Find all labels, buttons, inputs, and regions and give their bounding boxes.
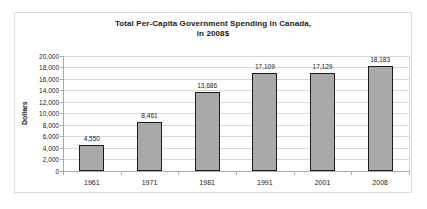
x-tick-mark — [351, 172, 352, 175]
bar-value-label: 13,686 — [185, 82, 229, 90]
y-axis-title: Dollars — [19, 56, 29, 171]
y-tick-label: 20,000 — [30, 53, 59, 60]
gridline — [63, 148, 409, 149]
bar — [79, 145, 104, 171]
gridline — [63, 90, 409, 91]
gridline — [63, 113, 409, 114]
bar-value-label: 18,183 — [358, 56, 402, 64]
chart-title-line2: in 2008$ — [15, 29, 411, 39]
y-tick-label: 2,000 — [30, 156, 59, 163]
bar-value-label: 8,461 — [128, 112, 172, 120]
gridline — [63, 79, 409, 80]
x-tick-label: 1961 — [70, 179, 114, 187]
x-tick-label: 2008 — [358, 179, 402, 187]
x-tick-label: 1991 — [243, 179, 287, 187]
bar — [137, 122, 162, 171]
x-tick-mark — [121, 172, 122, 175]
x-tick-mark — [63, 172, 64, 175]
gridline — [63, 67, 409, 68]
x-tick-label: 1971 — [128, 179, 172, 187]
y-tick-label: 10,000 — [30, 110, 59, 117]
y-tick-label: 6,000 — [30, 133, 59, 140]
chart-image: Total Per-Capita Government Spending in … — [0, 0, 427, 209]
x-tick-mark — [236, 172, 237, 175]
bar — [310, 73, 335, 171]
y-tick-label: 0 — [30, 168, 59, 175]
bar-value-label: 4,550 — [70, 135, 114, 143]
chart-frame: Total Per-Capita Government Spending in … — [14, 12, 412, 193]
chart-title-line1: Total Per-Capita Government Spending in … — [15, 19, 411, 29]
x-tick-mark — [178, 172, 179, 175]
gridline — [63, 56, 409, 57]
bar — [195, 92, 220, 171]
y-tick-label: 4,000 — [30, 145, 59, 152]
gridline — [63, 125, 409, 126]
x-tick-mark — [294, 172, 295, 175]
y-tick-label: 8,000 — [30, 122, 59, 129]
bar-value-label: 17,129 — [301, 63, 345, 71]
x-tick-mark — [409, 172, 410, 175]
gridline — [63, 159, 409, 160]
y-tick-label: 16,000 — [30, 76, 59, 83]
gridline — [63, 136, 409, 137]
chart-title: Total Per-Capita Government Spending in … — [15, 19, 411, 39]
x-tick-label: 2001 — [301, 179, 345, 187]
bar — [252, 73, 277, 171]
y-tick-label: 14,000 — [30, 87, 59, 94]
y-tick-label: 12,000 — [30, 99, 59, 106]
y-tick-label: 18,000 — [30, 64, 59, 71]
x-tick-label: 1981 — [185, 179, 229, 187]
bar — [368, 66, 393, 171]
gridline — [63, 102, 409, 103]
plot-right-edge — [409, 56, 410, 171]
y-axis-line — [63, 56, 64, 171]
bar-value-label: 17,109 — [243, 63, 287, 71]
